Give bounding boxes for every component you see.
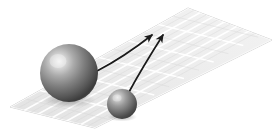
small-sphere-specular-highlight <box>113 94 122 101</box>
large-sphere-body <box>40 44 98 102</box>
large-sphere-specular-highlight <box>50 54 67 68</box>
figure-root <box>0 0 279 136</box>
scene-canvas <box>0 0 279 136</box>
large-sphere <box>40 44 98 102</box>
small-sphere-body <box>107 89 137 119</box>
small-sphere <box>107 89 137 119</box>
